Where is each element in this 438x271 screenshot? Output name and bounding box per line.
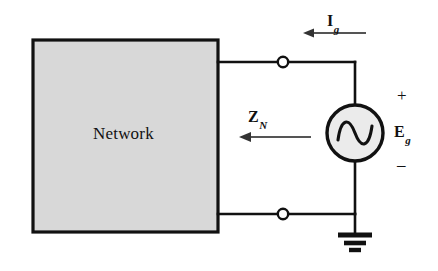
polarity-plus-sign: +: [397, 86, 407, 106]
voltage-subscript: g: [405, 134, 411, 146]
impedance-label-ZN: ZN: [248, 108, 267, 128]
current-symbol: I: [327, 12, 333, 29]
polarity-minus-sign: –: [397, 155, 406, 175]
circuit-schematic-canvas: [0, 0, 438, 271]
top-terminal-node: [278, 57, 288, 67]
impedance-subscript: N: [259, 119, 267, 131]
impedance-arrow-head: [239, 132, 251, 142]
current-subscript: g: [334, 23, 340, 35]
network-block-label: Network: [93, 124, 154, 144]
bottom-terminal-node: [278, 209, 288, 219]
voltage-label-Eg: Eg: [394, 123, 410, 143]
circuit-diagram-figure: Network Ig ZN Eg + –: [0, 0, 438, 271]
voltage-symbol: E: [394, 123, 405, 140]
current-label-Ig: Ig: [327, 12, 339, 32]
impedance-symbol: Z: [248, 108, 259, 125]
current-arrow-head: [303, 29, 314, 38]
